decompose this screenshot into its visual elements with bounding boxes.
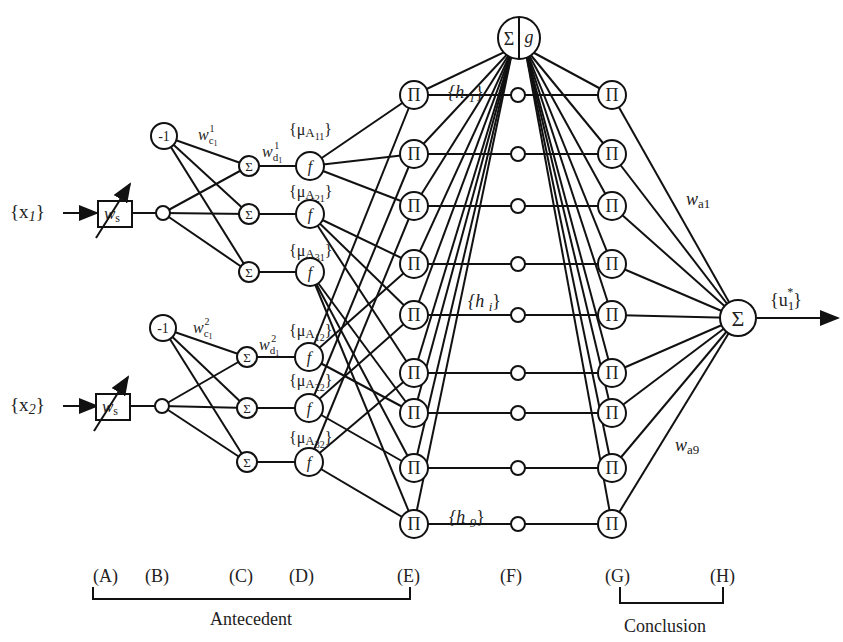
edge bbox=[612, 264, 738, 318]
product-node: Π bbox=[400, 399, 428, 427]
conclusion-label: Conclusion bbox=[624, 616, 706, 636]
conclusion-bracket bbox=[620, 587, 723, 603]
sum-node: Σ bbox=[237, 347, 257, 367]
svg-text:-1: -1 bbox=[157, 321, 169, 336]
edge bbox=[414, 48, 513, 524]
svg-text:-1: -1 bbox=[158, 129, 170, 144]
fanout-node bbox=[156, 206, 170, 220]
svg-text:Π: Π bbox=[408, 85, 421, 105]
svg-text:Π: Π bbox=[408, 363, 421, 383]
weight-wc1-1: wc11 bbox=[198, 123, 218, 148]
conclusion-product-node: Π bbox=[598, 81, 626, 109]
layer-label-f: (F) bbox=[500, 566, 522, 587]
output-sum-node: Σ bbox=[720, 300, 756, 336]
svg-text:Π: Π bbox=[408, 305, 421, 325]
normalized-node bbox=[511, 308, 525, 322]
svg-text:Π: Π bbox=[408, 403, 421, 423]
input-x2-label: {x2} bbox=[10, 394, 45, 417]
normalized-node bbox=[511, 517, 525, 531]
normalized-node bbox=[511, 406, 525, 420]
membership-label: {μA22} bbox=[289, 372, 332, 393]
output-label: {u1*} bbox=[770, 285, 802, 313]
membership-label: {μA11} bbox=[289, 121, 332, 142]
edge bbox=[162, 357, 247, 406]
svg-text:Σ: Σ bbox=[243, 455, 251, 470]
layer-label-b: (B) bbox=[145, 566, 169, 587]
product-node: Π bbox=[400, 192, 428, 220]
antecedent-bracket bbox=[93, 587, 410, 599]
conclusion-product-node: Π bbox=[598, 140, 626, 168]
layer-labels: (A) (B) (C) (D) (E) (F) (G) (H) bbox=[93, 566, 735, 587]
layer-label-a: (A) bbox=[93, 566, 118, 587]
svg-text:Π: Π bbox=[606, 85, 619, 105]
svg-text:Π: Π bbox=[606, 144, 619, 164]
edge bbox=[163, 213, 249, 272]
svg-text:Σ: Σ bbox=[245, 265, 253, 280]
edge bbox=[162, 406, 247, 462]
layer-label-g: (G) bbox=[605, 566, 630, 587]
layer-label-d: (D) bbox=[289, 566, 314, 587]
product-node: Π bbox=[400, 359, 428, 387]
edge bbox=[612, 206, 738, 318]
conclusion-product-node: Π bbox=[598, 399, 626, 427]
hi-label: {h i} bbox=[468, 291, 501, 314]
product-node: Π bbox=[400, 250, 428, 278]
fanout-node bbox=[155, 399, 169, 413]
normalized-node bbox=[511, 88, 525, 102]
edge bbox=[162, 406, 247, 408]
layer-label-c: (C) bbox=[229, 566, 253, 587]
normalized-node bbox=[511, 366, 525, 380]
normalized-node bbox=[511, 257, 525, 271]
sum-node: Σ bbox=[237, 398, 257, 418]
bias-node: -1 bbox=[151, 123, 177, 149]
product-node: Π bbox=[400, 454, 428, 482]
membership-function-node: f bbox=[295, 394, 323, 422]
weight-wc1-2: wc12 bbox=[193, 316, 213, 341]
conclusion-product-node: Π bbox=[598, 301, 626, 329]
edge bbox=[612, 95, 738, 318]
edge bbox=[612, 318, 738, 524]
svg-text:Π: Π bbox=[408, 196, 421, 216]
svg-text:Π: Π bbox=[606, 196, 619, 216]
svg-text:Π: Π bbox=[606, 254, 619, 274]
product-node: Π bbox=[400, 81, 428, 109]
svg-text:Π: Π bbox=[408, 144, 421, 164]
svg-text:Π: Π bbox=[606, 458, 619, 478]
conclusion-product-node: Π bbox=[598, 359, 626, 387]
sum-node: Σ bbox=[239, 156, 259, 176]
svg-text:Σ: Σ bbox=[504, 29, 514, 49]
conclusion-product-node: Π bbox=[598, 510, 626, 538]
membership-function-node: f bbox=[296, 258, 324, 286]
svg-text:Π: Π bbox=[606, 514, 619, 534]
membership-function-node: f bbox=[295, 448, 323, 476]
weight-wd1-1: wd11 bbox=[262, 140, 282, 165]
fuzzy-neural-network-diagram: {x1} ws {x2} ws wc11 wd11 wc12 wd12 {μA1… bbox=[0, 0, 843, 642]
edge bbox=[414, 48, 513, 468]
product-node: Π bbox=[400, 301, 428, 329]
bias-node: -1 bbox=[150, 315, 176, 341]
sum-node: Σ bbox=[239, 204, 259, 224]
edge bbox=[164, 136, 249, 272]
svg-text:Π: Π bbox=[408, 254, 421, 274]
input-x1-label: {x1} bbox=[10, 201, 45, 224]
membership-function-node: f bbox=[296, 200, 324, 228]
svg-text:Σ: Σ bbox=[243, 350, 251, 365]
weight-wd1-2: wd12 bbox=[259, 333, 279, 358]
product-node: Π bbox=[400, 510, 428, 538]
edge bbox=[525, 48, 612, 524]
edge bbox=[309, 462, 414, 524]
h1-label: {h 1} bbox=[448, 82, 484, 105]
layer-label-e: (E) bbox=[397, 566, 420, 587]
svg-text:Σ: Σ bbox=[245, 159, 253, 174]
layer-label-h: (H) bbox=[710, 566, 735, 587]
membership-function-node: f bbox=[295, 343, 323, 371]
membership-function-node: f bbox=[296, 152, 324, 180]
normalized-node bbox=[511, 147, 525, 161]
svg-text:Π: Π bbox=[408, 458, 421, 478]
product-node: Π bbox=[400, 140, 428, 168]
svg-text:Π: Π bbox=[606, 403, 619, 423]
svg-text:Π: Π bbox=[606, 305, 619, 325]
membership-label: {μA12} bbox=[289, 322, 332, 343]
h9-label: {h 9} bbox=[449, 507, 485, 530]
edge bbox=[612, 154, 738, 318]
